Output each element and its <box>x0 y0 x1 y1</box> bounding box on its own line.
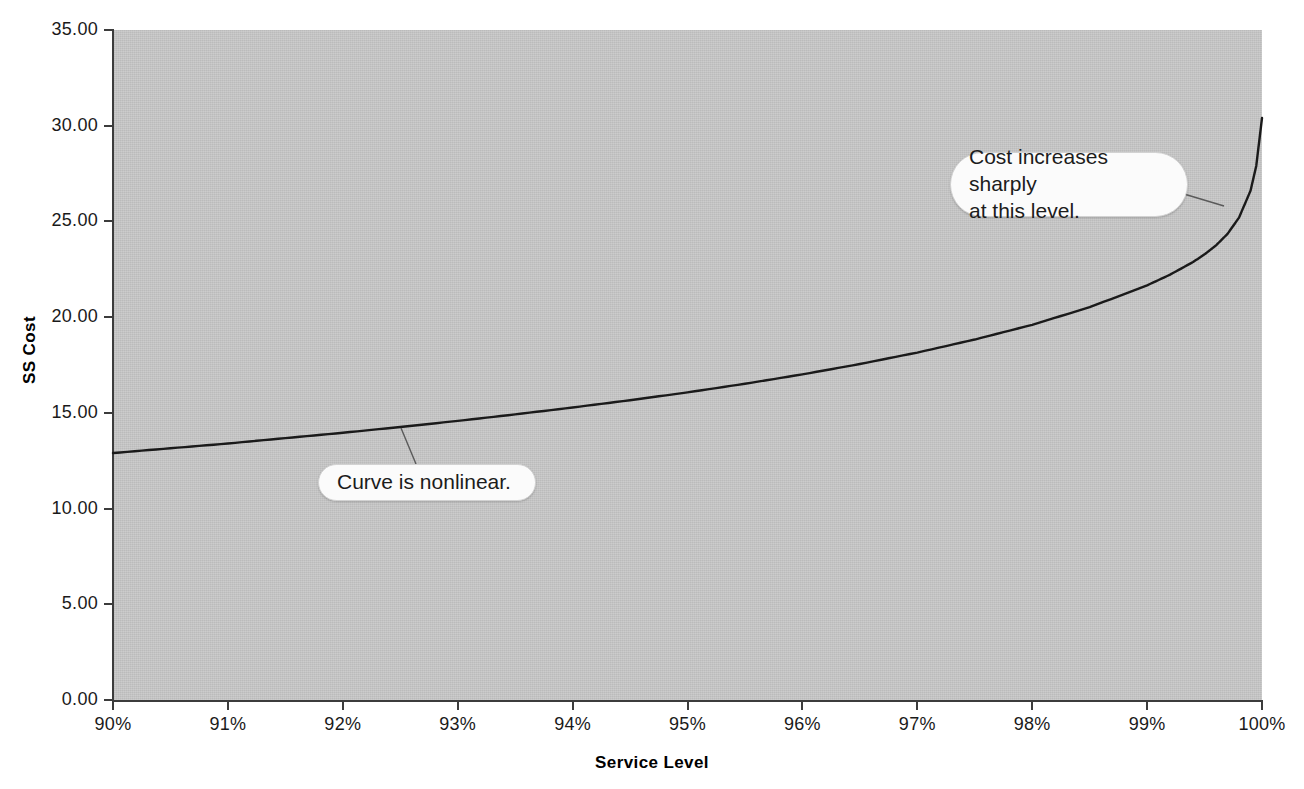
y-tick-mark <box>104 29 113 31</box>
x-tick-mark <box>1146 701 1148 710</box>
x-tick-mark <box>572 701 574 710</box>
x-tick-mark <box>916 701 918 710</box>
y-tick-label: 5.00 <box>12 593 98 614</box>
x-tick-mark <box>457 701 459 710</box>
annotation-callout-sharp[interactable]: Cost increases sharply at this level. <box>950 152 1188 217</box>
y-tick-mark <box>104 316 113 318</box>
x-tick-label: 99% <box>1107 714 1187 735</box>
y-tick-label: 0.00 <box>12 689 98 710</box>
y-tick-mark <box>104 412 113 414</box>
x-tick-label: 96% <box>762 714 842 735</box>
x-tick-mark <box>801 701 803 710</box>
annotation-callout-nonlinear-text: Curve is nonlinear. <box>319 469 535 496</box>
x-tick-label: 97% <box>877 714 957 735</box>
y-tick-mark <box>104 220 113 222</box>
x-tick-mark <box>227 701 229 710</box>
x-tick-label: 95% <box>648 714 728 735</box>
x-tick-label: 90% <box>73 714 153 735</box>
y-tick-mark <box>104 603 113 605</box>
x-axis-title: Service Level <box>0 753 1304 773</box>
y-tick-mark <box>104 125 113 127</box>
x-tick-label: 98% <box>992 714 1072 735</box>
x-tick-mark <box>112 701 114 710</box>
y-tick-label: 25.00 <box>12 210 98 231</box>
annotation-callout-sharp-text: Cost increases sharply at this level. <box>951 144 1187 225</box>
x-tick-label: 92% <box>303 714 383 735</box>
y-axis-line <box>112 29 114 702</box>
y-tick-mark <box>104 508 113 510</box>
x-tick-mark <box>342 701 344 710</box>
x-tick-mark <box>1031 701 1033 710</box>
x-tick-label: 94% <box>533 714 613 735</box>
annotation-callout-nonlinear[interactable]: Curve is nonlinear. <box>318 464 536 501</box>
y-tick-label: 30.00 <box>12 115 98 136</box>
chart-figure: 0.005.0010.0015.0020.0025.0030.0035.00 9… <box>0 0 1304 789</box>
x-tick-mark <box>1261 701 1263 710</box>
x-tick-mark <box>687 701 689 710</box>
plot-area <box>113 30 1262 700</box>
y-axis-title: SS Cost <box>20 290 40 410</box>
x-tick-label: 91% <box>188 714 268 735</box>
x-tick-label: 93% <box>418 714 498 735</box>
plot-background-texture <box>113 30 1262 700</box>
y-tick-label: 35.00 <box>12 19 98 40</box>
y-tick-label: 10.00 <box>12 498 98 519</box>
x-tick-label: 100% <box>1222 714 1302 735</box>
